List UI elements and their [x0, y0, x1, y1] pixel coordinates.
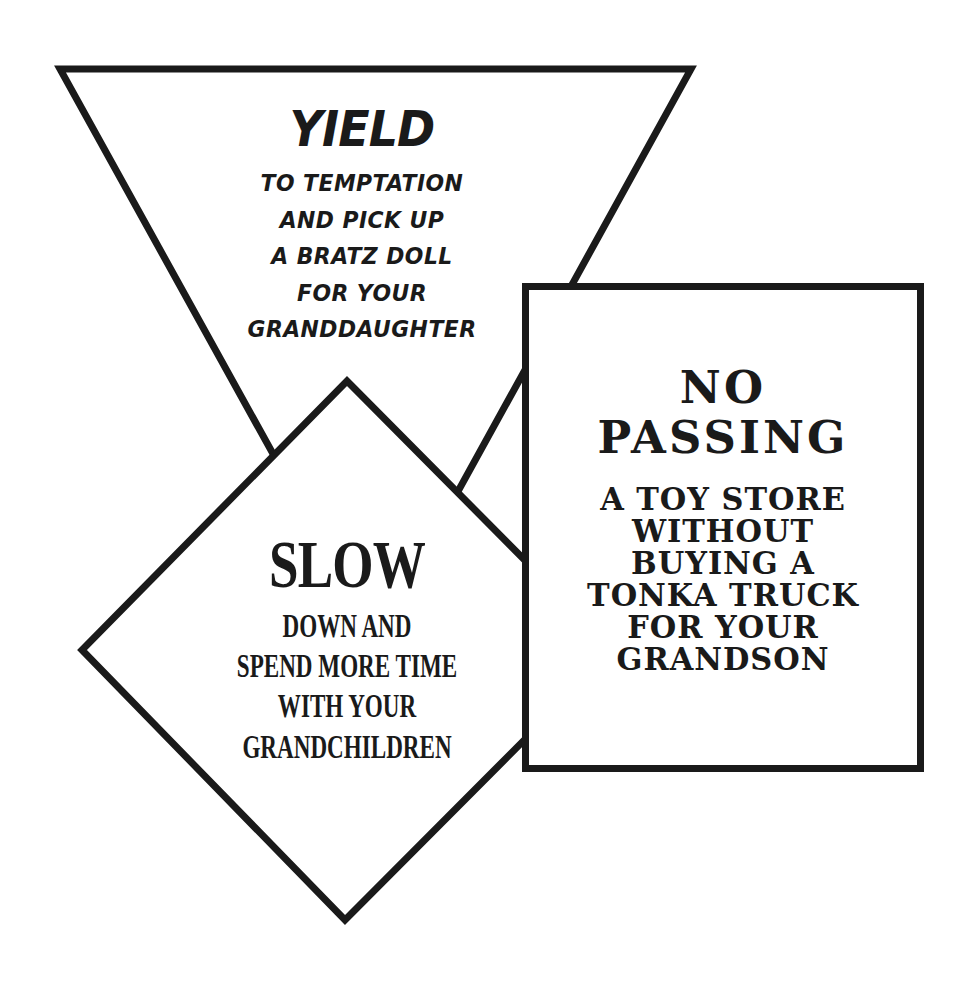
no-passing-title-line-2: PASSING	[545, 416, 902, 460]
no-passing-line-5: FOR YOUR	[552, 612, 895, 643]
no-passing-line-3: BUYING A	[552, 548, 895, 579]
no-passing-line-6: GRANDSON	[552, 644, 895, 675]
no-passing-line-2: WITHOUT	[552, 516, 895, 547]
no-passing-title-line-1: NO	[545, 366, 902, 410]
no-passing-line-1: A TOY STORE	[552, 484, 895, 515]
no-passing-line-4: TONKA TRUCK	[552, 580, 895, 611]
road-signs-illustration: YIELD TO TEMPTATION AND PICK UP A BRATZ …	[0, 0, 972, 985]
